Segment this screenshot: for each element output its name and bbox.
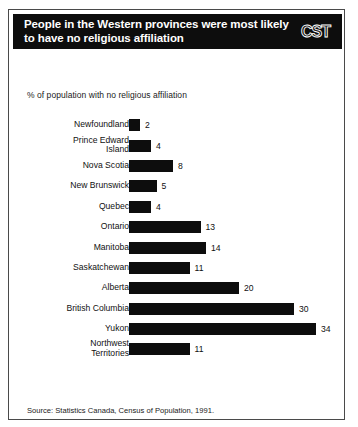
bar-value-label: 14: [211, 243, 221, 253]
bar-row: Prince Edward Island4: [9, 135, 344, 155]
bar-container: 4: [129, 201, 161, 213]
bar-value-label: 5: [162, 181, 167, 191]
bar-container: 13: [129, 221, 215, 233]
bar-container: 14: [129, 242, 221, 254]
source-note: Source: Statistics Canada, Census of Pop…: [27, 406, 214, 415]
bar-container: 11: [129, 262, 203, 274]
category-label: Saskatchewan: [24, 263, 129, 273]
category-label: Manitoba: [24, 243, 129, 253]
category-label: New Brunswick: [24, 182, 129, 192]
bar: [129, 119, 140, 131]
bar: [129, 160, 173, 172]
bar-container: 8: [129, 160, 183, 172]
bar-value-label: 4: [156, 202, 161, 212]
category-label: British Columbia: [24, 304, 129, 314]
bar-row: Manitoba14: [9, 237, 344, 257]
bar-container: 4: [129, 140, 161, 152]
bar-container: 20: [129, 282, 254, 294]
bar-value-label: 2: [145, 120, 150, 130]
bar-row: Yukon34: [9, 319, 344, 339]
bar-value-label: 8: [178, 161, 183, 171]
chart-frame: People in the Western provinces were mos…: [8, 9, 345, 420]
category-label: Ontario: [24, 222, 129, 232]
bar-row: Nova Scotia8: [9, 156, 344, 176]
bar-row: Quebec4: [9, 197, 344, 217]
bar: [129, 180, 157, 192]
bar-value-label: 4: [156, 141, 161, 151]
bar-row: Alberta20: [9, 278, 344, 298]
bar: [129, 221, 201, 233]
title-banner: People in the Western provinces were mos…: [13, 14, 342, 49]
category-label: Northwest Territories: [24, 340, 129, 359]
bar-container: 2: [129, 119, 150, 131]
cst-logo: CST: [301, 24, 334, 40]
bar-row: New Brunswick5: [9, 176, 344, 196]
category-label: Alberta: [24, 284, 129, 294]
bar: [129, 262, 190, 274]
category-label: Quebec: [24, 202, 129, 212]
bar: [129, 343, 190, 355]
category-label: Nova Scotia: [24, 161, 129, 171]
bar: [129, 323, 316, 335]
bar: [129, 140, 151, 152]
bar-container: 11: [129, 343, 203, 355]
category-label: Prince Edward Island: [24, 136, 129, 155]
bar-value-label: 13: [206, 222, 216, 232]
chart-subtitle: % of population with no religious affili…: [27, 90, 187, 100]
bar-row: Saskatchewan11: [9, 258, 344, 278]
bar-container: 34: [129, 323, 331, 335]
bar-value-label: 30: [299, 304, 309, 314]
bar: [129, 201, 151, 213]
bar-row: British Columbia30: [9, 299, 344, 319]
bar-value-label: 11: [195, 263, 204, 273]
bar-row: Ontario13: [9, 217, 344, 237]
bar-container: 30: [129, 303, 309, 315]
bar: [129, 303, 294, 315]
bar-container: 5: [129, 180, 166, 192]
bar: [129, 242, 206, 254]
bar-row: Newfoundland2: [9, 115, 344, 135]
bar-value-label: 20: [244, 283, 254, 293]
bar-row: Northwest Territories11: [9, 339, 344, 359]
category-label: Newfoundland: [24, 120, 129, 130]
page-title: People in the Western provinces were mos…: [24, 18, 289, 45]
bar-value-label: 11: [195, 344, 204, 354]
category-label: Yukon: [24, 324, 129, 334]
bar-chart: Newfoundland2Prince Edward Island4Nova S…: [9, 115, 344, 360]
bar: [129, 282, 239, 294]
bar-value-label: 34: [321, 324, 331, 334]
